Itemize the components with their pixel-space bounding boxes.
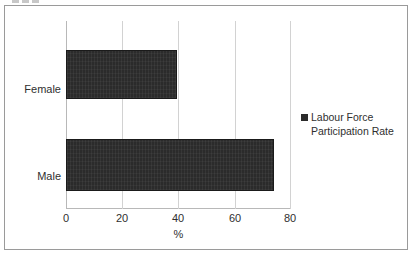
x-axis-title: %	[66, 228, 291, 240]
bar-male	[66, 139, 274, 191]
category-label-male: Male	[37, 170, 61, 182]
legend-swatch-icon	[301, 114, 308, 121]
x-tick-0: 0	[63, 212, 69, 224]
legend-label: Labour Force Participation Rate	[311, 110, 405, 138]
chart-figure-frame: Female Male 0 20 40 60 80 % Labour Force…	[4, 5, 408, 250]
category-label-female: Female	[24, 83, 61, 95]
gridline-80	[290, 21, 291, 209]
x-tick-40: 40	[172, 212, 184, 224]
plot-area	[66, 21, 291, 209]
x-tick-80: 80	[284, 212, 296, 224]
y-axis-category-labels: Female Male	[5, 21, 61, 209]
legend-item: Labour Force Participation Rate	[301, 110, 405, 138]
scan-artifact-cut-text	[12, 0, 46, 3]
chart-legend: Labour Force Participation Rate	[301, 110, 405, 138]
x-axis-tick-labels: 0 20 40 60 80	[66, 212, 291, 228]
bar-female	[66, 50, 177, 99]
x-tick-60: 60	[229, 212, 241, 224]
x-tick-20: 20	[116, 212, 128, 224]
